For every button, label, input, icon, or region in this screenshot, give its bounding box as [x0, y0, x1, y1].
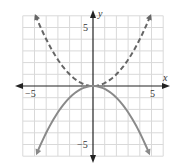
x-tick-label-neg5: −5 — [25, 88, 36, 99]
y-tick-label-5: 5 — [83, 22, 88, 33]
y-axis-down-arrow-icon — [90, 155, 96, 163]
coordinate-plane: y x 5 −5 −5 5 — [0, 0, 175, 166]
x-tick-label-5: 5 — [150, 88, 155, 99]
x-axis-left-arrow-icon — [15, 83, 23, 89]
x-axis-right-arrow-icon — [162, 83, 170, 89]
y-tick-label-neg5: −5 — [77, 139, 88, 150]
x-axis-label: x — [162, 72, 168, 83]
y-axis-up-arrow-icon — [90, 10, 96, 18]
y-axis-label: y — [97, 8, 103, 19]
